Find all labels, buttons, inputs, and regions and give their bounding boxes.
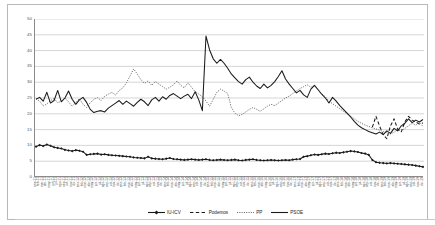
series-marker — [165, 157, 168, 160]
series-marker — [100, 153, 103, 156]
legend-item-iu-icv[interactable]: IU-ICV — [148, 209, 181, 216]
series-line-podemos — [372, 116, 423, 138]
series-marker — [255, 159, 258, 162]
series-marker — [56, 147, 59, 150]
series-marker — [219, 158, 222, 161]
series-marker — [414, 164, 417, 167]
series-marker — [103, 153, 106, 156]
series-marker — [96, 152, 99, 155]
series-line-pp — [36, 69, 423, 134]
series-marker — [183, 159, 186, 162]
series-marker — [393, 162, 396, 165]
series-marker — [248, 158, 251, 161]
series-marker — [422, 166, 424, 169]
series-marker — [346, 150, 349, 153]
x-axis-tick-label: dic-19 — [421, 177, 424, 202]
y-axis-tick-label: 5 — [16, 159, 32, 163]
series-marker — [357, 151, 360, 154]
legend-swatch — [237, 209, 254, 216]
series-marker — [389, 162, 392, 165]
chart-legend: IU-ICVPodemosPPPSOE — [15, 205, 435, 219]
series-marker — [169, 157, 172, 160]
legend-label: Podemos — [209, 210, 228, 215]
series-marker — [161, 158, 164, 161]
y-axis-tick-label: 35 — [16, 64, 32, 68]
y-axis-tick-label: 20 — [16, 112, 32, 116]
series-marker — [342, 151, 345, 154]
series-marker — [172, 158, 175, 161]
legend-divider — [15, 219, 435, 220]
series-marker — [179, 158, 182, 161]
series-marker — [197, 159, 200, 162]
legend-swatch — [148, 209, 165, 216]
series-marker — [60, 147, 63, 150]
series-marker — [313, 153, 316, 156]
series-marker — [107, 154, 110, 157]
series-line-iu-icv — [36, 144, 423, 166]
series-marker — [78, 149, 81, 152]
y-axis-tick-label: 50 — [16, 17, 32, 21]
y-axis-tick-label: 15 — [16, 127, 32, 131]
legend-swatch — [190, 209, 207, 216]
series-marker — [328, 153, 331, 156]
series-marker — [400, 163, 403, 166]
series-marker — [154, 157, 157, 160]
series-marker — [190, 158, 193, 161]
series-marker — [93, 153, 96, 156]
legend-label: IU-ICV — [167, 210, 181, 215]
series-marker — [295, 158, 298, 161]
chart-screenshot: 50454035302520151050 ene-11feb-11mar-11a… — [0, 0, 435, 225]
chart-frame: 50454035302520151050 ene-11feb-11mar-11a… — [7, 4, 428, 220]
series-marker — [411, 164, 414, 167]
series-marker — [310, 154, 313, 157]
legend-item-pp[interactable]: PP — [237, 209, 262, 216]
series-marker — [353, 150, 356, 153]
series-marker — [331, 152, 334, 155]
series-marker — [349, 150, 352, 153]
series-marker — [320, 153, 323, 156]
series-marker — [396, 162, 399, 165]
y-axis-tick-label: 10 — [16, 143, 32, 147]
plot-area — [34, 19, 423, 177]
series-marker — [418, 165, 421, 168]
series-marker — [129, 155, 132, 158]
y-axis-tick-label: 25 — [16, 96, 32, 100]
series-marker — [234, 158, 237, 161]
series-marker — [111, 154, 114, 157]
series-marker — [194, 158, 197, 161]
series-marker — [121, 155, 124, 158]
series-marker — [208, 159, 211, 162]
series-marker — [89, 153, 92, 156]
series-marker — [114, 154, 117, 157]
series-marker — [306, 155, 309, 158]
series-marker — [140, 157, 143, 160]
legend-label: PP — [256, 210, 262, 215]
series-marker — [407, 163, 410, 166]
series-marker — [158, 158, 161, 161]
series-marker — [317, 154, 320, 157]
series-marker — [71, 150, 74, 153]
series-marker — [252, 158, 255, 161]
series-marker — [205, 158, 208, 161]
series-marker — [378, 161, 381, 164]
series-marker — [230, 159, 233, 162]
series-marker — [132, 156, 135, 159]
y-axis-tick-label: 0 — [16, 175, 32, 179]
series-marker — [67, 149, 70, 152]
series-marker — [74, 149, 77, 152]
series-marker — [382, 162, 385, 165]
y-axis: 50454035302520151050 — [14, 19, 32, 177]
series-marker — [64, 149, 67, 152]
legend-swatch — [271, 209, 288, 216]
series-marker — [335, 151, 338, 154]
series-marker — [136, 156, 139, 159]
legend-item-psoe[interactable]: PSOE — [271, 209, 303, 216]
series-marker — [118, 155, 121, 158]
y-axis-tick-label: 30 — [16, 80, 32, 84]
series-marker — [324, 152, 327, 155]
legend-item-podemos[interactable]: Podemos — [190, 209, 228, 216]
series-marker — [386, 162, 389, 165]
series-marker — [360, 152, 363, 155]
series-marker — [125, 155, 128, 158]
series-marker — [364, 152, 367, 155]
